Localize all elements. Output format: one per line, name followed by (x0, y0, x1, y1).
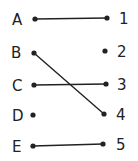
labels: ABCDE12345 (11, 10, 129, 156)
dots (30, 15, 109, 148)
dot-4 (101, 111, 106, 116)
connection-e-5 (33, 144, 103, 146)
dot-3 (103, 81, 108, 86)
dot-e (30, 143, 35, 148)
connection-lines (33, 18, 107, 146)
label-2: 2 (117, 43, 127, 61)
dot-1 (104, 15, 109, 20)
label-4: 4 (116, 106, 126, 124)
dot-a (32, 16, 37, 21)
label-b: B (11, 44, 21, 62)
dot-2 (102, 48, 107, 53)
dot-b (31, 50, 36, 55)
diagram-svg: ABCDE12345 (0, 0, 138, 161)
label-a: A (12, 11, 23, 29)
label-e: E (12, 138, 21, 156)
dot-5 (100, 141, 105, 146)
label-c: C (12, 77, 22, 95)
label-1: 1 (119, 10, 129, 28)
label-d: D (12, 107, 24, 125)
connection-a-1 (35, 18, 107, 19)
connection-c-3 (34, 84, 106, 85)
dot-d (30, 112, 35, 117)
label-5: 5 (116, 136, 126, 154)
label-3: 3 (117, 76, 127, 94)
matching-diagram: ABCDE12345 (0, 0, 138, 161)
dot-c (31, 82, 36, 87)
